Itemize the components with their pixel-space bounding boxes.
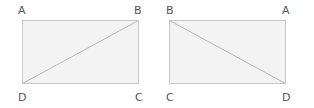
- right-label-c: C: [166, 91, 174, 104]
- left-rectangle: A B D C: [18, 4, 143, 104]
- right-label-a: A: [282, 4, 290, 17]
- left-label-d: D: [18, 91, 26, 104]
- left-label-a: A: [18, 4, 26, 17]
- right-label-d: D: [282, 91, 290, 104]
- left-label-c: C: [135, 91, 143, 104]
- left-label-b: B: [134, 4, 142, 17]
- rectangles-diagram: A B D C B A C D: [0, 0, 314, 108]
- right-label-b: B: [166, 4, 174, 17]
- right-rectangle: B A C D: [166, 4, 290, 104]
